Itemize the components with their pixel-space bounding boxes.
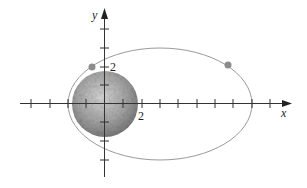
x-axis <box>20 99 284 108</box>
y-axis-arrow-icon <box>101 8 108 19</box>
satellite-point-right <box>225 62 232 69</box>
orbit-diagram: y x 2 2 <box>0 0 307 188</box>
x-tick-label-2: 2 <box>138 109 144 123</box>
x-axis-label: x <box>280 106 287 120</box>
y-axis-label: y <box>91 8 98 22</box>
y-tick-label-2: 2 <box>110 60 116 74</box>
satellite-point-left <box>89 64 96 71</box>
